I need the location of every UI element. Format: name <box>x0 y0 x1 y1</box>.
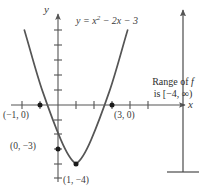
range-annotation: Range of f is [−4, ∞) <box>141 76 205 99</box>
point-y-intercept <box>56 147 61 152</box>
range-function-symbol: f <box>191 76 194 87</box>
quadratic-function-graph-figure: y x y = x2 − 2x − 3 (−1, 0) (3, 0) (0, −… <box>0 0 206 191</box>
point-root-left <box>38 103 43 108</box>
equation-lhs: y = x <box>76 15 97 26</box>
range-annotation-line-1: Range of f <box>141 76 205 88</box>
label-root-left: (−1, 0) <box>3 110 29 121</box>
label-root-right: (3, 0) <box>114 110 135 121</box>
parabola <box>24 30 127 164</box>
label-y-intercept: (0, −3) <box>10 141 36 152</box>
range-text-prefix: Range of <box>152 76 191 87</box>
range-annotation-line-2: is [−4, ∞) <box>141 88 205 100</box>
label-vertex: (1, −4) <box>63 175 89 186</box>
point-root-right <box>110 103 115 108</box>
equation-label: y = x2 − 2x − 3 <box>76 14 138 27</box>
y-axis-label: y <box>44 3 49 16</box>
point-vertex <box>74 162 79 167</box>
x-axis-label: x <box>188 98 193 111</box>
equation-rhs: − 2x − 3 <box>100 15 138 26</box>
